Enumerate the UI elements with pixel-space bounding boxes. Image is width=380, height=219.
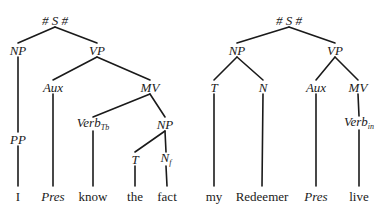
leaf-word-left-w3: know xyxy=(79,190,108,203)
node-label-right-np: NP xyxy=(229,44,246,57)
leaf-word-left-w5: fact xyxy=(157,190,176,203)
node-label-left-pp: PP xyxy=(10,133,26,146)
node-label-left-np1: NP xyxy=(10,44,27,57)
tree-edge xyxy=(358,94,359,116)
tree-edge xyxy=(237,57,263,80)
tree-edge xyxy=(53,57,97,80)
tree-edge xyxy=(262,94,263,186)
node-label-left-verb: VerbTb xyxy=(77,116,109,132)
tree-edge xyxy=(289,27,335,43)
node-label-right-mv: MV xyxy=(349,81,368,94)
node-label-right-aux: Aux xyxy=(306,81,326,94)
leaf-word-right-w2: Redeemer xyxy=(236,190,289,203)
node-label-right-n: N xyxy=(259,81,268,94)
tree-edge xyxy=(97,57,150,80)
leaf-word-left-w1: I xyxy=(16,190,20,203)
tree-edge xyxy=(335,57,358,80)
node-label-right-verb: Verbin xyxy=(344,115,374,131)
tree-edge xyxy=(150,94,165,117)
tree-edge xyxy=(165,131,166,152)
node-label-right-vp: VP xyxy=(327,44,343,57)
leaf-word-left-w2: Pres xyxy=(41,190,64,203)
node-label-right-s: # S # xyxy=(276,14,302,27)
node-label-left-aux: Aux xyxy=(43,81,63,94)
syntax-tree-diagram: # S #NPVPPPAuxMVVerbTbNPTNfIPresknowthef… xyxy=(0,0,380,219)
node-label-left-s: # S # xyxy=(42,14,68,27)
tree-edge xyxy=(55,27,97,43)
leaf-word-left-w4: the xyxy=(127,190,143,203)
tree-edge xyxy=(316,57,335,80)
node-label-left-n: Nf xyxy=(161,151,172,167)
node-label-left-np2: NP xyxy=(157,118,174,131)
leaf-word-right-w4: live xyxy=(349,190,369,203)
node-label-left-mv: MV xyxy=(141,81,160,94)
tree-edge xyxy=(93,94,150,117)
node-label-left-t: T xyxy=(131,153,138,166)
node-label-left-vp: VP xyxy=(89,44,105,57)
tree-edge xyxy=(135,131,165,152)
tree-edge xyxy=(166,166,167,186)
tree-edge xyxy=(237,27,289,43)
leaf-word-right-w3: Pres xyxy=(304,190,327,203)
tree-edge xyxy=(214,57,237,80)
tree-edges xyxy=(0,0,380,219)
node-label-right-t: T xyxy=(210,81,217,94)
leaf-word-right-w1: my xyxy=(206,190,223,203)
tree-edge xyxy=(18,27,55,43)
